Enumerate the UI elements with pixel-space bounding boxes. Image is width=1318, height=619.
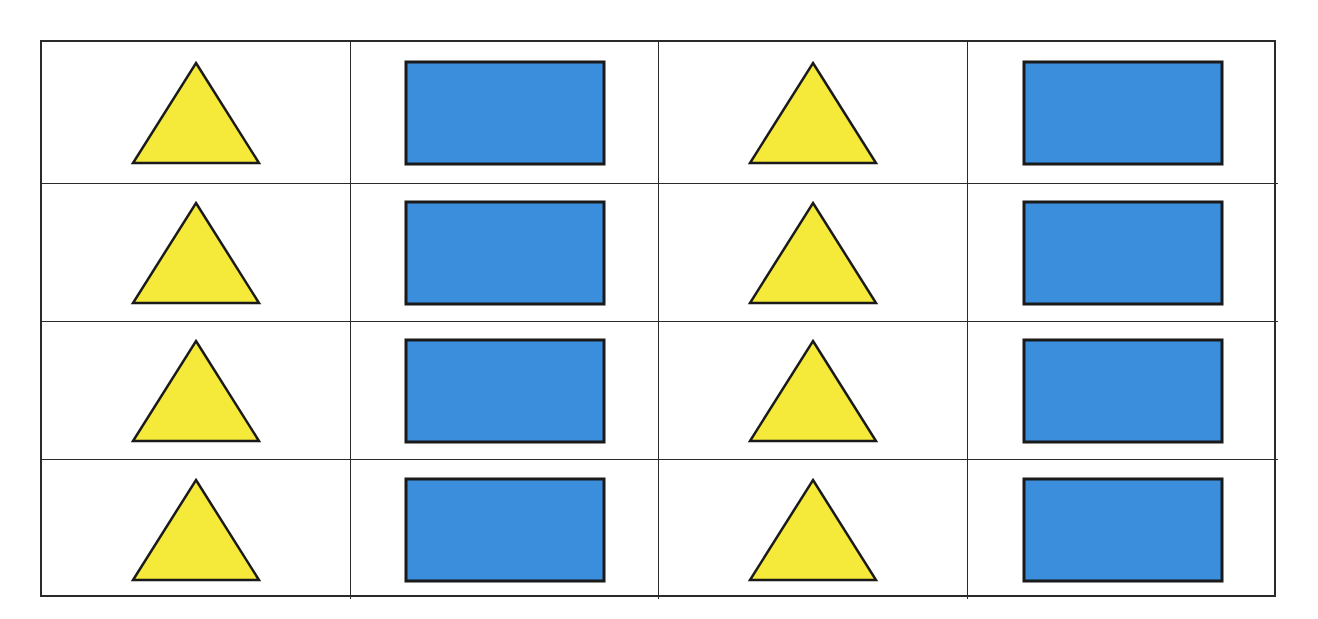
rectangle-icon — [404, 477, 606, 583]
grid-cell-r1-c1 — [42, 42, 351, 184]
grid-cell-r3-c3 — [659, 322, 968, 460]
grid-cell-r2-c1 — [42, 184, 351, 322]
grid-cell-r4-c2 — [351, 460, 659, 599]
triangle-icon — [746, 59, 880, 167]
grid-cell-r4-c3 — [659, 460, 968, 599]
grid-cell-r3-c2 — [351, 322, 659, 460]
triangle-icon — [746, 337, 880, 445]
rectangle-icon — [404, 338, 606, 444]
rectangle-icon — [1022, 338, 1224, 444]
grid-cell-r2-c4 — [968, 184, 1278, 322]
rectangle-icon — [1022, 477, 1224, 583]
grid-cell-r4-c4 — [968, 460, 1278, 599]
grid-cell-r3-c1 — [42, 322, 351, 460]
triangle-icon — [746, 199, 880, 307]
triangle-icon — [129, 199, 263, 307]
rectangle-icon — [1022, 60, 1224, 166]
grid-cell-r1-c4 — [968, 42, 1278, 184]
grid-cell-r3-c4 — [968, 322, 1278, 460]
grid-cell-r2-c2 — [351, 184, 659, 322]
grid-cell-r2-c3 — [659, 184, 968, 322]
grid-cell-r4-c1 — [42, 460, 351, 599]
shape-grid — [40, 40, 1276, 597]
grid-cell-r1-c2 — [351, 42, 659, 184]
triangle-icon — [129, 476, 263, 584]
rectangle-icon — [1022, 200, 1224, 306]
grid-cell-r1-c3 — [659, 42, 968, 184]
triangle-icon — [746, 476, 880, 584]
rectangle-icon — [404, 200, 606, 306]
rectangle-icon — [404, 60, 606, 166]
triangle-icon — [129, 337, 263, 445]
triangle-icon — [129, 59, 263, 167]
